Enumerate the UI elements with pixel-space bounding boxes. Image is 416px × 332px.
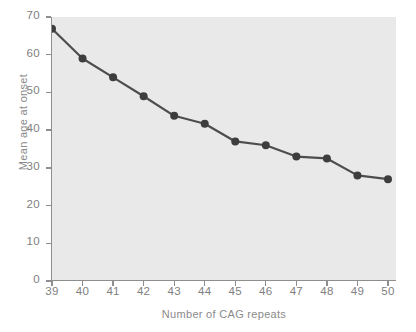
data-point [140,92,148,100]
y-tick [46,54,51,55]
y-tick-label: 20 [27,198,40,210]
data-point [109,73,117,81]
data-point [353,171,361,179]
y-tick [46,167,51,168]
data-point [231,137,239,145]
x-tick-label: 41 [98,285,128,297]
x-tick-label: 46 [251,285,281,297]
x-tick-label: 48 [312,285,342,297]
data-point [79,54,87,62]
plot-area [52,17,396,281]
y-tick-label: 70 [27,9,40,21]
chart-figure: 010203040506070 394041424344454647484950… [0,0,416,332]
y-tick [46,205,51,206]
data-point [384,175,392,183]
x-tick-label: 40 [68,285,98,297]
x-axis-line [51,280,396,281]
data-point-markers [52,25,392,183]
x-tick-label: 45 [220,285,250,297]
y-tick [46,129,51,130]
x-tick-label: 39 [37,285,67,297]
x-tick-label: 47 [281,285,311,297]
y-axis-line [51,17,52,281]
y-tick [46,280,51,281]
x-tick-label: 44 [190,285,220,297]
y-tick [46,243,51,244]
data-point [170,112,178,120]
x-tick-label: 42 [129,285,159,297]
x-tick-label: 43 [159,285,189,297]
data-point [201,120,209,128]
y-tick-label: 0 [33,273,40,285]
data-series-line [52,29,388,179]
line-chart-svg [52,17,396,281]
x-tick-label: 50 [373,285,403,297]
data-point [262,141,270,149]
x-axis-title: Number of CAG repeats [52,308,396,320]
x-tick-label: 49 [342,285,372,297]
y-tick [46,92,51,93]
y-tick-label: 10 [27,235,40,247]
y-tick [46,16,51,17]
data-point [323,154,331,162]
y-axis-title: Mean age at onset [17,47,29,197]
data-point [292,153,300,161]
